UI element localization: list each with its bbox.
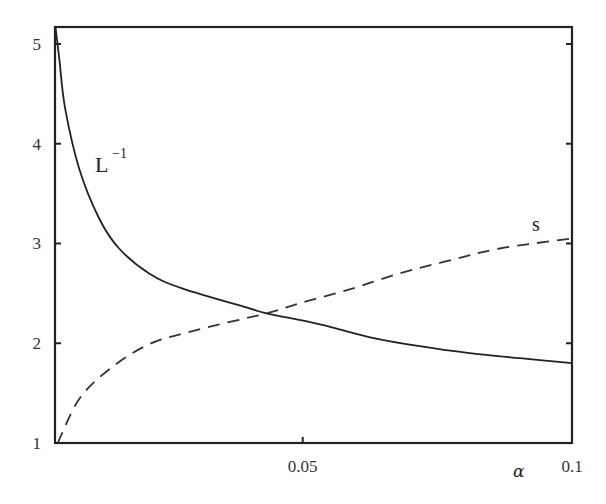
y-tick-label: 5 [33, 35, 42, 54]
x-tick-label: 0.05 [288, 457, 318, 476]
curve-label-L-inverse: L [95, 152, 108, 177]
plot-frame [55, 27, 572, 443]
x-axis-label: α [513, 461, 525, 481]
series-L-inverse-solid-line [56, 27, 573, 363]
plot-series [56, 27, 573, 443]
y-tick-label: 1 [33, 434, 42, 453]
y-tick-label: 4 [33, 135, 42, 154]
axis-ticks [55, 44, 572, 443]
series-s-dashed-line [58, 239, 572, 444]
y-tick-label: 3 [33, 234, 42, 253]
curve-label-s: s [532, 213, 540, 235]
x-tick-label: 0.1 [561, 457, 582, 476]
curve-label-L-inverse-superscript: −1 [112, 146, 127, 161]
axis-tick-labels: 123450.050.1 [33, 35, 583, 476]
line-chart: 123450.050.1 L −1 s α [0, 0, 606, 504]
y-tick-label: 2 [33, 334, 42, 353]
